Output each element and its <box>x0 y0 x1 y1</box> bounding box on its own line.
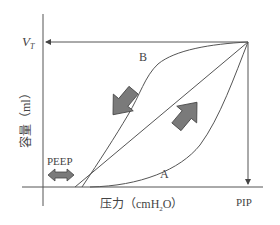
pressure-volume-loop-diagram: VT 容量（ml） PEEP B A 压力（cmH2O） PIP <box>0 0 280 225</box>
expiration-direction-arrow <box>103 82 143 123</box>
compliance-line <box>75 42 248 187</box>
peep-double-arrow-icon <box>48 169 74 181</box>
y-axis-label: 容量（ml） <box>18 87 33 148</box>
peep-label: PEEP <box>47 155 73 167</box>
curve-a-label: A <box>160 167 169 181</box>
x-axis-label: 压力（cmH2O） <box>100 197 184 213</box>
expiratory-curve-b <box>82 42 248 187</box>
pip-label: PIP <box>236 196 252 208</box>
curve-b-label: B <box>139 50 147 64</box>
vt-label: VT <box>22 34 35 51</box>
inspiration-direction-arrow <box>166 94 206 135</box>
